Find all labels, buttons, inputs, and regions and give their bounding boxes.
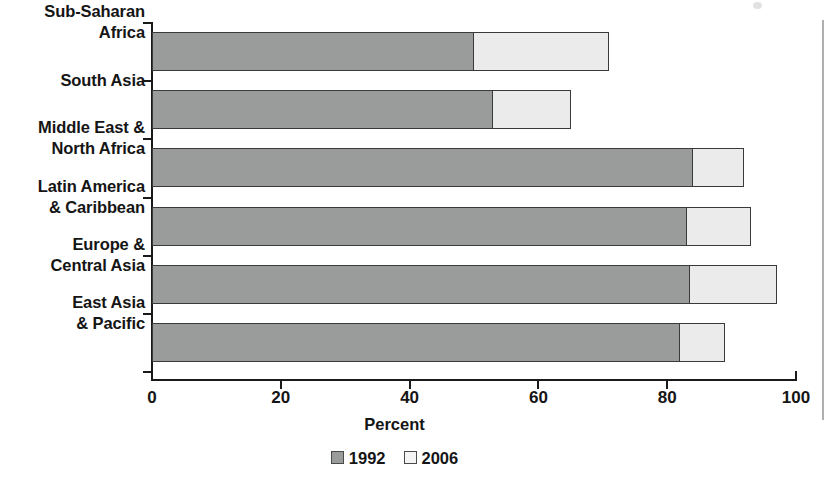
legend-item-2006: 2006 xyxy=(404,448,459,468)
category-label-line1: Middle East & xyxy=(5,117,145,138)
bar-segment-1992 xyxy=(152,148,693,187)
chart-legend: 19922006 xyxy=(0,447,831,468)
category-label-line1: East Asia xyxy=(5,292,145,313)
category-label-sub-saharan-africa: Sub-SaharanAfrica xyxy=(5,1,145,43)
x-axis-tick-label: 100 xyxy=(782,388,810,408)
x-axis-tick-label: 80 xyxy=(658,388,677,408)
scan-speck xyxy=(753,2,762,9)
bar-chart: Sub-SaharanAfricaSouth AsiaMiddle East &… xyxy=(0,0,831,481)
category-label-line1: Latin America xyxy=(5,176,145,197)
x-axis-title: Percent xyxy=(0,415,831,434)
bar-segment-1992 xyxy=(152,207,687,246)
bar-segment-1992 xyxy=(152,265,690,304)
legend-swatch-icon xyxy=(331,451,344,464)
category-label-line1: South Asia xyxy=(5,70,145,91)
page-edge-line xyxy=(822,20,824,420)
category-label-line2: & Caribbean xyxy=(5,197,145,218)
category-label-line2: & Pacific xyxy=(5,313,145,334)
x-axis-title-text: Percent xyxy=(364,415,425,434)
x-axis-tick-label: 40 xyxy=(400,388,419,408)
x-axis-tick-label: 60 xyxy=(529,388,548,408)
bar-segment-1992 xyxy=(152,323,680,362)
legend-item-1992: 1992 xyxy=(331,448,386,468)
plot-area xyxy=(152,22,796,380)
legend-label: 1992 xyxy=(349,449,386,467)
category-label-line2: Africa xyxy=(5,22,145,43)
category-label-east-asia-pacific: East Asia& Pacific xyxy=(5,292,145,334)
category-label-line2: North Africa xyxy=(5,138,145,159)
category-label-line1: Europe & xyxy=(5,234,145,255)
legend-swatch-icon xyxy=(404,451,417,464)
category-label-line1: Sub-Saharan xyxy=(5,1,145,22)
category-label-line2: Central Asia xyxy=(5,255,145,276)
category-label-latin-america-caribbean: Latin America& Caribbean xyxy=(5,176,145,218)
bar-segment-1992 xyxy=(152,90,493,129)
category-labels: Sub-SaharanAfricaSouth AsiaMiddle East &… xyxy=(0,0,145,358)
category-label-middle-east-north-africa: Middle East &North Africa xyxy=(5,117,145,159)
legend-label: 2006 xyxy=(422,449,459,467)
category-label-south-asia: South Asia xyxy=(5,70,145,91)
x-axis-tick-label: 20 xyxy=(271,388,290,408)
category-label-europe-central-asia: Europe &Central Asia xyxy=(5,234,145,276)
bar-segment-1992 xyxy=(152,32,474,71)
x-axis-tick-label: 0 xyxy=(147,388,156,408)
